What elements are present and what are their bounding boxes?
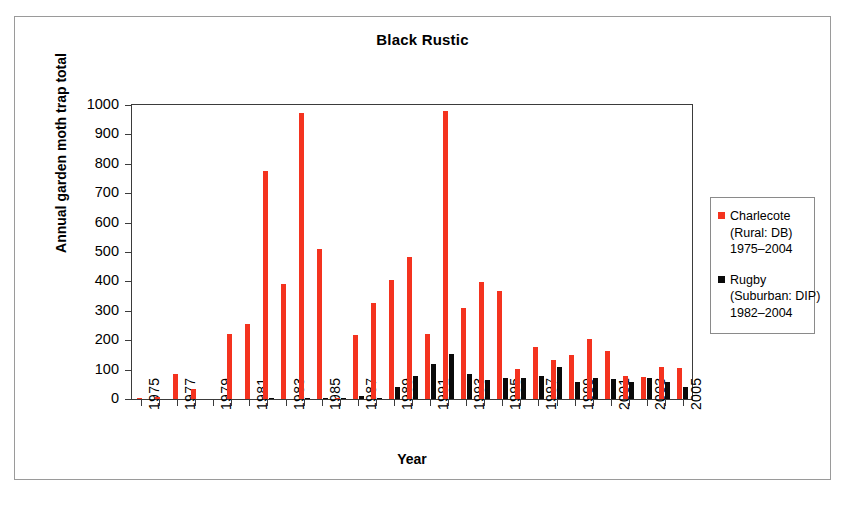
bar-rugby	[305, 398, 310, 399]
bar-charlecote	[533, 347, 538, 399]
x-axis-tick	[448, 399, 449, 406]
bar-charlecote	[389, 280, 394, 399]
bar-rugby	[323, 398, 328, 399]
bar-group	[223, 105, 241, 399]
bar-group	[475, 105, 493, 399]
x-axis-tick	[466, 399, 467, 406]
bar-group	[241, 105, 259, 399]
bar-rugby	[539, 376, 544, 399]
x-axis-tick	[394, 399, 395, 406]
y-axis-tick-label: 200	[95, 331, 119, 347]
bar-group	[151, 105, 169, 399]
y-axis-tick: 100	[125, 370, 132, 371]
bar-group	[457, 105, 475, 399]
y-axis-tick: 600	[125, 223, 132, 224]
x-axis-tick	[538, 399, 539, 406]
bar-charlecote	[407, 257, 412, 399]
bar-rugby	[665, 382, 670, 399]
bar-group	[547, 105, 565, 399]
bar-group	[349, 105, 367, 399]
bar-charlecote	[641, 377, 646, 399]
x-axis-tick	[502, 399, 503, 406]
x-axis-title: Year	[131, 451, 693, 467]
x-axis-tick	[267, 399, 268, 406]
y-axis-tick-label: 1000	[87, 96, 119, 112]
bar-rugby	[269, 398, 274, 399]
x-axis-tick	[304, 399, 305, 406]
bar-charlecote	[245, 324, 250, 399]
x-axis-tick	[340, 399, 341, 406]
bar-charlecote	[155, 397, 160, 399]
y-axis-tick-label: 400	[95, 272, 119, 288]
x-axis-tick	[177, 399, 178, 406]
bar-group	[187, 105, 205, 399]
bar-group	[169, 105, 187, 399]
bar-rugby	[593, 378, 598, 399]
bar-charlecote	[371, 303, 376, 399]
bar-group	[601, 105, 619, 399]
bar-rugby	[575, 382, 580, 399]
bar-charlecote	[569, 355, 574, 399]
x-axis-tick	[195, 399, 196, 406]
bar-group	[637, 105, 655, 399]
bar-group	[133, 105, 151, 399]
x-axis-tick	[159, 399, 160, 406]
bar-group	[385, 105, 403, 399]
legend-entry-head: Charlecote	[718, 208, 808, 225]
screenshot-root: Black Rustic Annual garden moth trap tot…	[0, 0, 847, 528]
y-axis-tick: 400	[125, 281, 132, 282]
y-axis-tick-label: 300	[95, 302, 119, 318]
x-axis-tick	[683, 399, 684, 406]
bar-group	[619, 105, 637, 399]
bar-rugby	[485, 380, 490, 399]
bar-rugby	[431, 364, 436, 399]
legend-swatch-icon	[718, 276, 725, 283]
bar-charlecote	[551, 360, 556, 399]
bar-rugby	[647, 378, 652, 399]
bar-group	[583, 105, 601, 399]
legend-entry: Rugby(Suburban: DIP)1982–2004	[718, 272, 808, 322]
bar-rugby	[629, 382, 634, 399]
bar-rugby	[503, 378, 508, 399]
legend-series-detail: (Suburban: DIP)	[730, 288, 808, 305]
chart-frame: Black Rustic Annual garden moth trap tot…	[14, 16, 831, 480]
bar-rugby	[467, 374, 472, 399]
y-axis-tick-label: 600	[95, 214, 119, 230]
x-axis-tick	[231, 399, 232, 406]
bar-charlecote	[461, 308, 466, 399]
y-axis-tick: 900	[125, 134, 132, 135]
bar-group	[673, 105, 691, 399]
legend-series-detail: (Rural: DB)	[730, 225, 808, 242]
bar-charlecote	[281, 284, 286, 399]
legend-entry-head: Rugby	[718, 272, 808, 289]
y-axis-tick-label: 700	[95, 184, 119, 200]
bar-group	[331, 105, 349, 399]
bar-group	[205, 105, 223, 399]
x-axis-tick	[213, 399, 214, 406]
bar-rugby	[413, 376, 418, 399]
bar-group	[259, 105, 277, 399]
x-axis-tick	[358, 399, 359, 406]
x-axis-tick	[575, 399, 576, 406]
x-axis-tick	[484, 399, 485, 406]
y-axis-tick: 0	[125, 399, 132, 400]
bar-charlecote	[587, 339, 592, 399]
plot-area: 01002003004005006007008009001000 1975197…	[131, 104, 693, 400]
x-axis-tick	[557, 399, 558, 406]
x-axis-tick	[665, 399, 666, 406]
bar-charlecote	[299, 113, 304, 399]
x-axis-tick	[376, 399, 377, 406]
bar-series-container	[132, 105, 692, 399]
y-axis-tick: 200	[125, 340, 132, 341]
y-axis-tick: 500	[125, 252, 132, 253]
x-axis-tick	[611, 399, 612, 406]
y-axis-tick-label: 0	[111, 390, 119, 406]
legend-swatch-icon	[718, 212, 725, 219]
bar-charlecote	[515, 369, 520, 399]
bar-group	[421, 105, 439, 399]
bar-charlecote	[677, 368, 682, 399]
x-axis-tick	[647, 399, 648, 406]
bar-charlecote	[173, 374, 178, 399]
bar-group	[493, 105, 511, 399]
bar-rugby	[449, 354, 454, 399]
